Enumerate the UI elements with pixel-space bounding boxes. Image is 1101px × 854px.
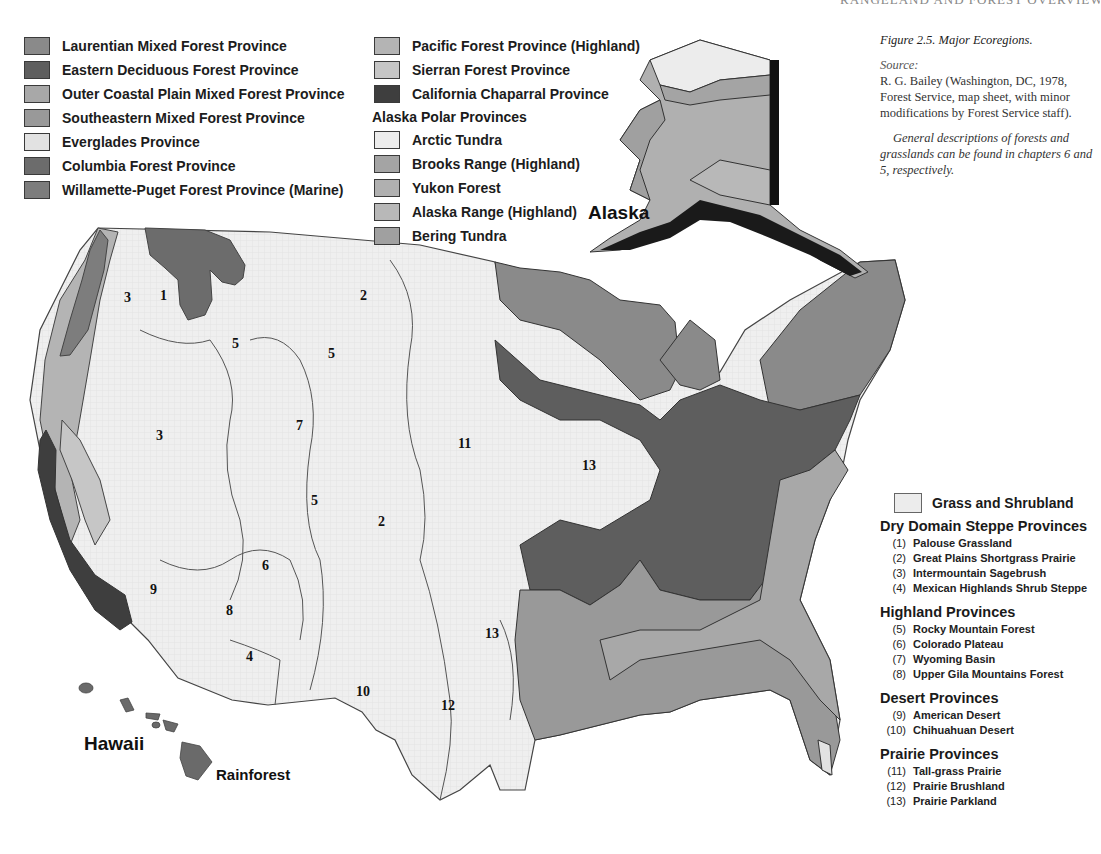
legend-swatch xyxy=(894,493,922,513)
region-number: 10 xyxy=(356,684,370,700)
legend-label: Grass and Shrubland xyxy=(932,495,1074,511)
legend-label: Eastern Deciduous Forest Province xyxy=(62,62,299,78)
hawaii-islands xyxy=(79,683,212,780)
group-title: Highland Provinces xyxy=(880,604,1101,620)
legend-item: Pacific Forest Province (Highland) xyxy=(374,34,640,58)
legend-item: Eastern Deciduous Forest Province xyxy=(24,58,344,82)
legend-item: (3)Intermountain Sagebrush xyxy=(880,566,1101,581)
legend-item: (5)Rocky Mountain Forest xyxy=(880,622,1101,637)
region-number: 13 xyxy=(485,626,499,642)
legend-label: Willamette-Puget Forest Province (Marine… xyxy=(62,182,343,198)
legend-swatch xyxy=(374,37,400,55)
legend-swatch xyxy=(24,157,50,175)
region-number: 4 xyxy=(246,649,253,665)
legend-swatch xyxy=(374,155,400,173)
item-number: (12) xyxy=(880,779,906,794)
region-number: 2 xyxy=(378,514,385,530)
legend-item: Brooks Range (Highland) xyxy=(374,152,640,176)
legend-swatch xyxy=(374,227,400,245)
legend-item: (1)Palouse Grassland xyxy=(880,536,1101,551)
alaska-border-shape xyxy=(770,60,779,205)
figure-caption: Figure 2.5. Major Ecoregions. Source: R.… xyxy=(880,32,1100,178)
legend-item: (11)Tall-grass Prairie xyxy=(880,764,1101,779)
legend-label: Alaska Range (Highland) xyxy=(412,204,577,220)
item-number: (8) xyxy=(880,667,906,682)
legend-label: Yukon Forest xyxy=(412,180,501,196)
legend-item: (6)Colorado Plateau xyxy=(880,637,1101,652)
item-number: (9) xyxy=(880,708,906,723)
legend-item: Outer Coastal Plain Mixed Forest Provinc… xyxy=(24,82,344,106)
grass-shrubland-item: Grass and Shrubland xyxy=(894,490,1101,516)
item-number: (6) xyxy=(880,637,906,652)
region-number: 12 xyxy=(441,698,455,714)
legend-item: (10)Chihuahuan Desert xyxy=(880,723,1101,738)
legend-item: Laurentian Mixed Forest Province xyxy=(24,34,344,58)
legend-label: Pacific Forest Province (Highland) xyxy=(412,38,640,54)
legend-label: Everglades Province xyxy=(62,134,200,150)
legend-item: California Chaparral Province xyxy=(374,82,640,106)
hawaii-label: Hawaii xyxy=(84,733,144,755)
source-label: Source: xyxy=(880,57,1100,73)
legend-item: (8)Upper Gila Mountains Forest xyxy=(880,667,1101,682)
item-label: Upper Gila Mountains Forest xyxy=(913,667,1063,682)
legend-label: Columbia Forest Province xyxy=(62,158,235,174)
legend-item: Southeastern Mixed Forest Province xyxy=(24,106,344,130)
legend-item: Sierran Forest Province xyxy=(374,58,640,82)
region-number: 3 xyxy=(156,428,163,444)
legend-swatch xyxy=(374,85,400,103)
legend-label: Brooks Range (Highland) xyxy=(412,156,580,172)
legend-middle: Pacific Forest Province (Highland) Sierr… xyxy=(374,34,640,248)
rainforest-label: Rainforest xyxy=(216,766,290,783)
legend-swatch xyxy=(374,131,400,149)
item-label: Great Plains Shortgrass Prairie xyxy=(913,551,1076,566)
item-label: Rocky Mountain Forest xyxy=(913,622,1035,637)
legend-label: Laurentian Mixed Forest Province xyxy=(62,38,287,54)
alaska-heading: Alaska Polar Provinces xyxy=(372,106,640,128)
item-number: (3) xyxy=(880,566,906,581)
region-number: 6 xyxy=(262,558,269,574)
item-label: Chihuahuan Desert xyxy=(913,723,1014,738)
region-number: 5 xyxy=(232,336,239,352)
legend-label: Outer Coastal Plain Mixed Forest Provinc… xyxy=(62,86,344,102)
legend-item: (9)American Desert xyxy=(880,708,1101,723)
region-number: 5 xyxy=(311,493,318,509)
group-title: Desert Provinces xyxy=(880,690,1101,706)
figure-title: Figure 2.5. Major Ecoregions. xyxy=(880,32,1100,48)
legend-item: Bering Tundra xyxy=(374,224,640,248)
legend-item: (12)Prairie Brushland xyxy=(880,779,1101,794)
region-number: 9 xyxy=(150,582,157,598)
item-label: Wyoming Basin xyxy=(913,652,995,667)
legend-label: Sierran Forest Province xyxy=(412,62,570,78)
legend-label: Arctic Tundra xyxy=(412,132,502,148)
item-number: (13) xyxy=(880,794,906,809)
item-number: (11) xyxy=(880,764,906,779)
item-number: (4) xyxy=(880,581,906,596)
item-label: Tall-grass Prairie xyxy=(913,764,1001,779)
legend-item: Willamette-Puget Forest Province (Marine… xyxy=(24,178,344,202)
legend-item: Everglades Province xyxy=(24,130,344,154)
everglades-shape xyxy=(818,740,832,775)
legend-swatch xyxy=(24,85,50,103)
region-number: 3 xyxy=(124,290,131,306)
item-label: Mexican Highlands Shrub Steppe xyxy=(913,581,1087,596)
legend-swatch xyxy=(24,181,50,199)
item-number: (5) xyxy=(880,622,906,637)
region-number: 7 xyxy=(296,418,303,434)
legend-swatch xyxy=(374,179,400,197)
item-label: Intermountain Sagebrush xyxy=(913,566,1046,581)
legend-item: (4)Mexican Highlands Shrub Steppe xyxy=(880,581,1101,596)
legend-item: Alaska Range (Highland) xyxy=(374,200,640,224)
group-title: Prairie Provinces xyxy=(880,746,1101,762)
legend-label: California Chaparral Province xyxy=(412,86,609,102)
figure-note: General descriptions of forests and gras… xyxy=(880,130,1100,178)
item-number: (7) xyxy=(880,652,906,667)
region-number: 8 xyxy=(226,603,233,619)
region-number: 1 xyxy=(160,288,167,304)
legend-item: Arctic Tundra xyxy=(374,128,640,152)
source-text: R. G. Bailey (Washington, DC, 1978, Fore… xyxy=(880,73,1100,121)
item-number: (1) xyxy=(880,536,906,551)
item-label: American Desert xyxy=(913,708,1000,723)
legend-swatch xyxy=(24,109,50,127)
region-number: 2 xyxy=(360,288,367,304)
legend-swatch xyxy=(24,61,50,79)
